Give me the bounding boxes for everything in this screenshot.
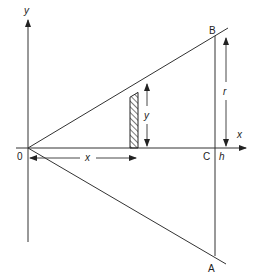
cone-diagram: y x y r x 0 B A C h (0, 0, 256, 279)
radius-label: r (223, 86, 227, 97)
height-label: h (219, 151, 225, 162)
line-OB (28, 28, 228, 148)
x-axis-label: x (236, 129, 243, 140)
strip-distance-label: x (84, 152, 91, 163)
y-axis-label: y (23, 5, 30, 16)
hatched-strip (130, 92, 138, 148)
point-B-label: B (209, 25, 216, 36)
origin-label: 0 (17, 151, 23, 162)
line-OA (28, 148, 226, 264)
point-A-label: A (208, 263, 215, 274)
strip-height-label: y (143, 110, 150, 121)
point-C-label: C (203, 151, 210, 162)
